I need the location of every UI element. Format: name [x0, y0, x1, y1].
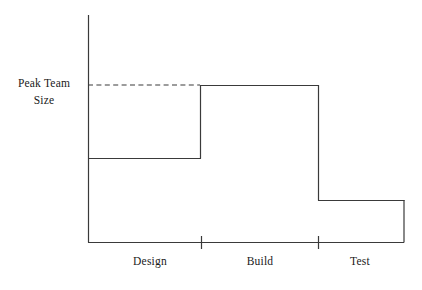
- chart-container: Peak Team Size Design Build Test: [0, 0, 422, 290]
- step-chart-svg: [0, 0, 422, 290]
- y-axis-label-line1: Peak Team: [18, 77, 70, 89]
- y-axis-label-line2: Size: [8, 92, 80, 109]
- x-tick-label-design: Design: [104, 254, 196, 268]
- y-axis-label: Peak Team Size: [8, 75, 80, 109]
- x-tick-label-build: Build: [214, 254, 306, 268]
- x-tick-label-test: Test: [318, 254, 402, 268]
